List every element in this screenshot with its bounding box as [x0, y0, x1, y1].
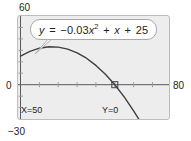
y-value-readout: Y=0 — [102, 105, 118, 115]
y-axis-min-label: −30 — [8, 126, 25, 137]
x-axis-max-label: 80 — [173, 80, 184, 91]
y-axis-max-label: 60 — [19, 2, 30, 13]
x-value-readout: X=50 — [21, 105, 42, 115]
x-axis-min-label: 0 — [6, 80, 12, 91]
equation-text: y = −0.03x2 + x + 25 — [39, 24, 148, 36]
graphing-calculator-figure: 60 −30 0 80 — [0, 0, 191, 141]
equation-callout: y = −0.03x2 + x + 25 — [30, 19, 157, 40]
